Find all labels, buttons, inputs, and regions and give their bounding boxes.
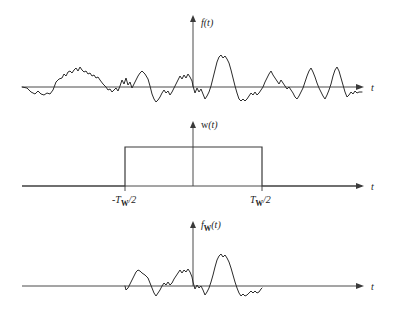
panel-window-y-axis-arrow <box>190 121 196 128</box>
panel-windowed-y-label: fW(t) <box>201 219 221 233</box>
panel-window-y-label: w(t) <box>201 119 218 131</box>
signal-windowing-figure: f(t) t w(t) t -TW/2 TW/2 <box>0 0 394 318</box>
panel-windowed-signal: fW(t) t <box>22 219 374 296</box>
panel-signal-y-label: f(t) <box>201 17 214 29</box>
panel-window-x-label: t <box>371 181 374 192</box>
panel-window-y-label-tail: (t) <box>208 119 218 131</box>
panel-signal-y-axis-arrow <box>190 15 196 22</box>
figure-container: f(t) t w(t) t -TW/2 TW/2 <box>0 0 394 318</box>
panel-signal: f(t) t <box>22 15 374 102</box>
tick-label-right-suffix: /2 <box>262 194 271 205</box>
panel-windowed-y-axis-arrow <box>190 221 196 228</box>
window-rectangle-waveform <box>22 147 362 186</box>
tick-label-left: -TW/2 <box>112 194 136 208</box>
signal-waveform-f <box>22 55 362 102</box>
panel-window: w(t) t -TW/2 TW/2 <box>22 119 374 208</box>
panel-windowed-y-label-tail: (t) <box>211 219 221 231</box>
tick-label-left-suffix: /2 <box>127 194 136 205</box>
tick-label-right: TW/2 <box>250 194 271 208</box>
panel-signal-x-axis-arrow <box>356 84 364 90</box>
panel-signal-y-label-tail: (t) <box>204 17 214 29</box>
panel-windowed-x-axis-arrow <box>356 283 364 289</box>
panel-signal-x-label: t <box>371 82 374 93</box>
panel-windowed-x-label: t <box>371 281 374 292</box>
